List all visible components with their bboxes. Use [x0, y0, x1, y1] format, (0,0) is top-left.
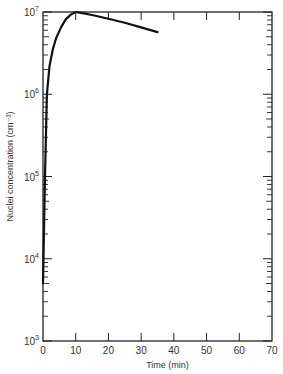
y-tick-label: 107 — [24, 5, 39, 18]
y-tick-label: 106 — [24, 87, 39, 100]
x-tick-label: 10 — [70, 345, 82, 356]
x-tick-label: 60 — [234, 345, 246, 356]
y-tick-label: 104 — [24, 252, 39, 265]
plot-frame — [43, 12, 272, 341]
data-line — [43, 12, 158, 284]
chart: 010203040506070103104105106107Time (min)… — [0, 0, 283, 374]
x-tick-label: 50 — [201, 345, 213, 356]
y-axis-title: Nuclei concentration (cm⁻³) — [5, 111, 15, 221]
y-tick-label: 105 — [24, 170, 39, 183]
x-tick-label: 40 — [168, 345, 180, 356]
x-tick-label: 0 — [40, 345, 46, 356]
x-tick-label: 20 — [103, 345, 115, 356]
x-tick-label: 30 — [136, 345, 148, 356]
x-axis-title: Time (min) — [146, 360, 189, 370]
y-tick-label: 103 — [24, 334, 39, 347]
x-tick-label: 70 — [266, 345, 278, 356]
